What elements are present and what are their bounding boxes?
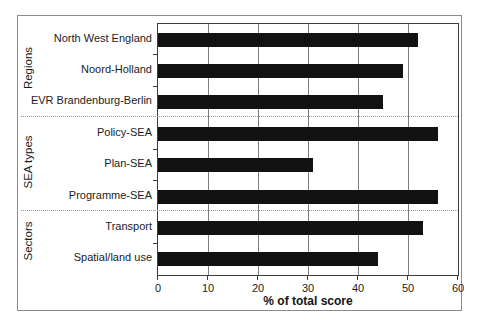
category-label: Noord-Holland: [20, 63, 152, 75]
x-tick-label-40: 40: [343, 282, 373, 294]
bar-policy-sea: [158, 127, 438, 141]
x-tick-label-60: 60: [443, 282, 473, 294]
y-axis-tick: [153, 86, 157, 87]
group-separator: [21, 116, 458, 117]
x-tick-label-50: 50: [393, 282, 423, 294]
gridline-50: [408, 24, 409, 275]
group-label-sea-types: SEA types: [22, 132, 34, 192]
x-axis-tick-20: [257, 276, 258, 280]
y-axis-tick: [153, 243, 157, 244]
x-tick-label-0: 0: [143, 282, 173, 294]
category-label: EVR Brandenburg-Berlin: [20, 94, 152, 106]
gridline-30: [308, 24, 309, 275]
chart-outer-frame: % of total score North West EnglandNoord…: [17, 15, 462, 311]
category-label: Spatial/land use: [20, 251, 152, 263]
y-axis-tick: [153, 54, 157, 55]
x-tick-label-20: 20: [243, 282, 273, 294]
bar-plan-sea: [158, 158, 313, 172]
bar-programme-sea: [158, 190, 438, 204]
bar-transport: [158, 221, 423, 235]
plot-area: [157, 23, 459, 276]
group-label-sectors: Sectors: [22, 211, 34, 271]
x-axis-tick-10: [207, 276, 208, 280]
x-tick-label-10: 10: [193, 282, 223, 294]
category-label: North West England: [20, 32, 152, 44]
chart-figure: % of total score North West EnglandNoord…: [0, 0, 481, 328]
group-label-regions: Regions: [22, 38, 34, 98]
y-axis-tick: [153, 149, 157, 150]
bar-spatial-land-use: [158, 252, 378, 266]
x-axis-tick-40: [357, 276, 358, 280]
x-axis-title: % of total score: [157, 294, 459, 308]
bar-evr-brandenburg-berlin: [158, 95, 383, 109]
bar-north-west-england: [158, 33, 418, 47]
gridline-10: [208, 24, 209, 275]
y-axis-tick: [153, 180, 157, 181]
gridline-40: [358, 24, 359, 275]
group-separator: [21, 210, 458, 211]
category-label: Plan-SEA: [20, 157, 152, 169]
x-axis-tick-60: [457, 276, 458, 280]
x-axis-tick-30: [307, 276, 308, 280]
x-axis-tick-0: [157, 276, 158, 280]
gridline-20: [258, 24, 259, 275]
x-tick-label-30: 30: [293, 282, 323, 294]
category-label: Transport: [20, 220, 152, 232]
category-label: Policy-SEA: [20, 126, 152, 138]
category-label: Programme-SEA: [20, 189, 152, 201]
bar-noord-holland: [158, 64, 403, 78]
x-axis-tick-50: [407, 276, 408, 280]
